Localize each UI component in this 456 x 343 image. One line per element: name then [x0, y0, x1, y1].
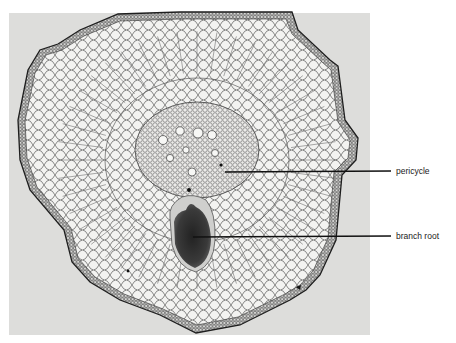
label-pericycle: pericycle: [396, 167, 430, 176]
label-branch-root: branch root: [396, 232, 439, 241]
micrograph-figure: [0, 0, 456, 343]
debris-dot: [127, 270, 130, 273]
stele: [135, 102, 259, 198]
stele-marker-dot: [219, 163, 222, 166]
